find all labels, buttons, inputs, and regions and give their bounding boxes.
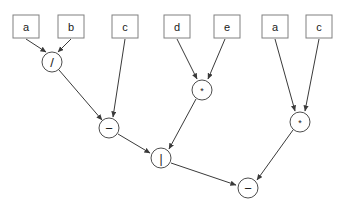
edge-arrow — [305, 39, 319, 111]
diagram-canvas: abcdeac/−*|*− — [0, 0, 345, 211]
nodes-layer: abcdeac/−*|*− — [13, 15, 332, 198]
leaf-node-c[interactable]: c — [306, 15, 332, 38]
operator-node-op-minus1[interactable]: − — [99, 118, 119, 138]
operator-node-op-pipe[interactable]: | — [151, 148, 171, 168]
operator-label: * — [200, 86, 204, 96]
edge-arrow — [118, 134, 150, 153]
edge-arrow — [26, 39, 46, 52]
leaf-node-e[interactable]: e — [214, 15, 240, 38]
edge-arrow — [59, 70, 102, 120]
leaf-node-a[interactable]: a — [13, 15, 39, 38]
leaf-label: c — [316, 21, 322, 33]
leaf-label: a — [272, 21, 279, 33]
leaf-node-c[interactable]: c — [112, 15, 138, 38]
edge-arrow — [208, 39, 225, 79]
edge-arrow — [257, 130, 293, 180]
leaf-label: c — [122, 21, 128, 33]
leaf-label: d — [174, 21, 180, 33]
leaf-node-d[interactable]: d — [164, 15, 190, 38]
edge-arrow — [177, 39, 197, 79]
operator-label: / — [50, 55, 54, 70]
edge-arrow — [171, 163, 236, 185]
operator-node-op-div[interactable]: / — [42, 52, 62, 72]
leaf-label: a — [23, 21, 30, 33]
edges-layer — [26, 39, 319, 185]
leaf-label: e — [224, 21, 230, 33]
edge-arrow — [275, 39, 295, 111]
expression-dag-svg: abcdeac/−*|*− — [0, 0, 345, 211]
operator-label: − — [244, 181, 252, 196]
edge-arrow — [169, 99, 196, 149]
operator-node-op-mul1[interactable]: * — [192, 80, 212, 100]
edge-arrow — [58, 39, 71, 52]
operator-label: * — [298, 118, 302, 128]
leaf-node-a[interactable]: a — [262, 15, 288, 38]
operator-label: − — [105, 121, 113, 136]
edge-arrow — [113, 39, 125, 117]
operator-label: | — [159, 152, 162, 166]
leaf-label: b — [68, 21, 74, 33]
operator-node-op-mul2[interactable]: * — [290, 112, 310, 132]
operator-node-op-minus2[interactable]: − — [238, 178, 258, 198]
leaf-node-b[interactable]: b — [58, 15, 84, 38]
